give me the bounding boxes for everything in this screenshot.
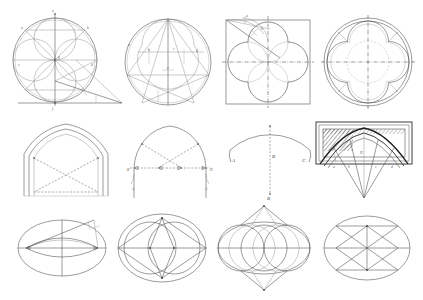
label-A: A [231, 158, 236, 163]
label-d: d [391, 165, 393, 169]
centre-axes [321, 15, 415, 109]
label-b: b [148, 48, 150, 52]
label-b: b [87, 26, 89, 30]
label-c: c [375, 165, 377, 169]
quatrefoil-construction-svg: a b c d e f g [8, 8, 128, 114]
label-c: c [173, 47, 175, 51]
radius-centreline [269, 125, 271, 195]
cinquefoil-construction-svg: a b c d e [118, 12, 218, 112]
figure-pointed-arch-moulding-profile [18, 120, 114, 200]
ellipse-axes [18, 220, 106, 276]
arch-curve [134, 126, 206, 198]
figure-quatrefoil-rose-window-in-circle [318, 12, 418, 112]
centre-arrow-markers [134, 143, 206, 169]
ellipse-trammel-svg [14, 208, 114, 288]
jamb-brackets [131, 174, 209, 184]
label-B-bottom: B [267, 196, 270, 201]
label-e: e [52, 9, 54, 13]
four-centred-arch-svg: B D A A [120, 120, 220, 202]
figure-cinquefoil-pentagon-construction: a b c d e [118, 12, 218, 112]
label-b: b [261, 27, 263, 31]
figure-quatrefoil-in-square: a b [218, 12, 318, 112]
label-A-left: A [131, 187, 135, 191]
rose-window-svg [318, 12, 418, 112]
label-g: g [58, 55, 60, 59]
springing-markers [24, 157, 108, 196]
axes-group [138, 19, 204, 105]
figure-ellipse-by-four-arc-method [212, 202, 318, 294]
pointed-arch-svg [18, 120, 114, 200]
figure-quatrefoil-construction-with-baseline: a b c d e f g [8, 8, 128, 114]
label-d: d [196, 49, 198, 53]
label-B: B [127, 168, 130, 172]
label-a: a [333, 165, 335, 169]
label-b: b [348, 165, 350, 169]
label-f: f [52, 107, 54, 111]
ellipse-rectangle-svg [318, 206, 416, 290]
segmental-arch-svg: A C B B [222, 118, 318, 202]
label-d: d [91, 63, 93, 67]
figure-ellipse-by-three-circle-method [112, 206, 212, 290]
label-a: a [21, 26, 23, 30]
label-c: c [18, 63, 20, 67]
figure-vault-rib-setting-out: a b c d H [312, 118, 418, 202]
label-a: a [128, 43, 130, 47]
label-H: H [359, 151, 363, 155]
figure-ellipse-by-trammel-method [14, 208, 114, 288]
ellipse-four-arc-svg [212, 202, 318, 294]
figure-segmental-arch-radius-construction: A C B B [222, 118, 318, 202]
figure-four-centred-arch-construction: B D A A [120, 120, 220, 202]
label-B-mid: B [272, 154, 275, 159]
label-e: e [167, 66, 169, 70]
ellipse-three-circle-svg [112, 206, 212, 290]
construction-diagonals [142, 144, 198, 168]
construction-chords [34, 158, 98, 192]
plate-canvas: a b c d e f g [0, 0, 423, 300]
label-C: C [302, 158, 306, 163]
label-D: D [209, 168, 213, 172]
figure-ellipse-by-rectangle-method [318, 206, 416, 290]
quatrefoil-in-square-svg: a b [218, 12, 318, 112]
label-A-right: A [204, 187, 208, 191]
vault-rib-svg: a b c d H [312, 118, 418, 202]
construction-ticks [149, 49, 184, 102]
arch-mouldings [24, 124, 108, 196]
label-a: a [246, 14, 248, 18]
